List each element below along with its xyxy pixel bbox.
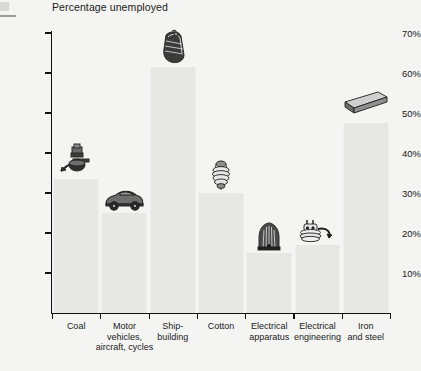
- x-axis-origin-tick: [52, 313, 53, 319]
- x-axis-tick: [100, 313, 101, 319]
- bar: [150, 67, 196, 313]
- y-axis-tick: [45, 152, 51, 153]
- y-axis-tick: [45, 272, 51, 273]
- x-axis-end-tick: [390, 313, 391, 319]
- chart-title: Percentage unemployed: [52, 1, 168, 13]
- steel-girder-icon: [343, 91, 389, 125]
- category-label-line: and steel: [331, 332, 401, 343]
- x-axis-tick: [342, 313, 343, 319]
- cotton-bobbin-icon: [208, 159, 234, 195]
- x-axis-tick: [293, 313, 294, 319]
- bar: [343, 123, 389, 313]
- y-axis-tick: [45, 72, 51, 73]
- scan-artifact: [0, 2, 9, 11]
- scan-artifact: [0, 15, 16, 17]
- y-axis-tick: [45, 112, 51, 113]
- category-label-line: building: [138, 332, 208, 343]
- bar: [295, 245, 341, 313]
- bar: [246, 253, 292, 313]
- car-icon: [103, 189, 145, 215]
- category-label-line: aircraft, cycles: [89, 342, 159, 353]
- unemployment-bar-chart: Percentage unemployed 70%60%50%40%30%20%…: [0, 0, 421, 371]
- x-axis-category-label: Ironand steel: [331, 321, 401, 342]
- bar: [53, 179, 99, 313]
- bar: [101, 213, 147, 313]
- category-label-line: Iron: [331, 321, 401, 332]
- bar: [198, 193, 244, 313]
- y-axis-tick: [45, 232, 51, 233]
- electric-plug-and-cable-icon: [298, 217, 338, 247]
- x-axis-tick: [245, 313, 246, 319]
- x-axis-tick: [197, 313, 198, 319]
- pickaxe-and-miners-lamp-icon: [59, 143, 93, 181]
- plot-area: [52, 31, 390, 313]
- y-axis-tick: [45, 192, 51, 193]
- ship-hull-icon: [159, 29, 187, 69]
- y-axis-tick: [45, 32, 51, 33]
- x-axis-tick: [149, 313, 150, 319]
- electric-heater-icon: [255, 221, 283, 255]
